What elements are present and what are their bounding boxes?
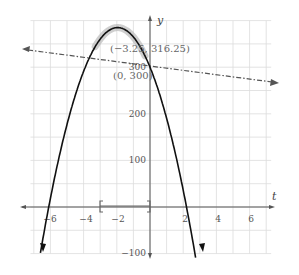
x-axis-left-arrow-icon bbox=[20, 205, 26, 209]
y-axis-label: y bbox=[156, 14, 164, 27]
x-tick-label: 6 bbox=[248, 214, 254, 224]
line-left-arrow-icon bbox=[22, 46, 30, 52]
line-right-arrow-icon bbox=[270, 79, 279, 86]
y-axis-down-arrow-icon bbox=[148, 253, 152, 259]
x-tick-label: −2 bbox=[111, 214, 124, 224]
x-axis-right-arrow-icon bbox=[269, 205, 275, 209]
chart-area: y t −6 −4 −2 2 4 6 300 200 100 −100 (−3.… bbox=[0, 0, 299, 275]
x-tick-label: 2 bbox=[182, 214, 188, 224]
x-tick-label: 4 bbox=[215, 214, 221, 224]
x-axis-label: t bbox=[272, 190, 277, 203]
intercept-annotation: (0, 300) bbox=[113, 70, 153, 81]
x-tick-label: −4 bbox=[79, 214, 93, 224]
vertex-annotation: (−3.25, 316.25) bbox=[110, 43, 190, 54]
y-tick-label: 100 bbox=[129, 155, 146, 165]
y-tick-label: 200 bbox=[129, 109, 146, 119]
y-axis-up-arrow-icon bbox=[148, 15, 152, 21]
y-tick-label: −100 bbox=[121, 248, 146, 258]
interval-bracket bbox=[100, 201, 150, 212]
